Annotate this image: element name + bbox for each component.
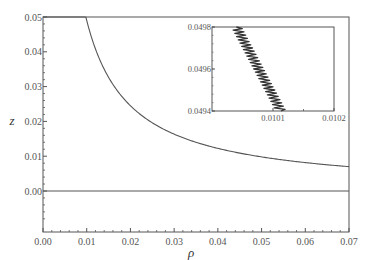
x-tick-label: 0.01 [78, 236, 96, 247]
x-tick-label: 0.04 [209, 236, 227, 247]
inset-y-tick-label: 0.0496 [188, 64, 211, 74]
y-tick-label: 0.05 [25, 12, 43, 23]
x-axis-title: ρ [187, 245, 194, 260]
x-tick-label: 0.00 [34, 236, 52, 247]
x-tick-label: 0.03 [165, 236, 183, 247]
y-tick-label: 0.03 [25, 81, 43, 92]
x-tick-label: 0.07 [340, 236, 358, 247]
y-tick-label: 0.02 [25, 116, 43, 127]
inset-y-tick-label: 0.0494 [188, 106, 212, 116]
inset-x-tick-label: 0.0101 [261, 113, 284, 123]
y-tick-label: 0.01 [25, 151, 43, 162]
y-tick-label: 0.00 [25, 186, 43, 197]
chart: 0.000.010.020.030.040.050.060.070.000.01… [0, 0, 367, 260]
inset-plot: 0.04940.04960.04980.01010.0102 [188, 22, 346, 123]
x-tick-label: 0.05 [253, 236, 271, 247]
inset-x-tick-label: 0.0102 [322, 113, 345, 123]
y-tick-label: 0.04 [25, 46, 43, 57]
inset-y-tick-label: 0.0498 [188, 22, 211, 32]
x-tick-label: 0.06 [297, 236, 315, 247]
y-axis-title: z [8, 113, 14, 128]
x-tick-label: 0.02 [122, 236, 140, 247]
